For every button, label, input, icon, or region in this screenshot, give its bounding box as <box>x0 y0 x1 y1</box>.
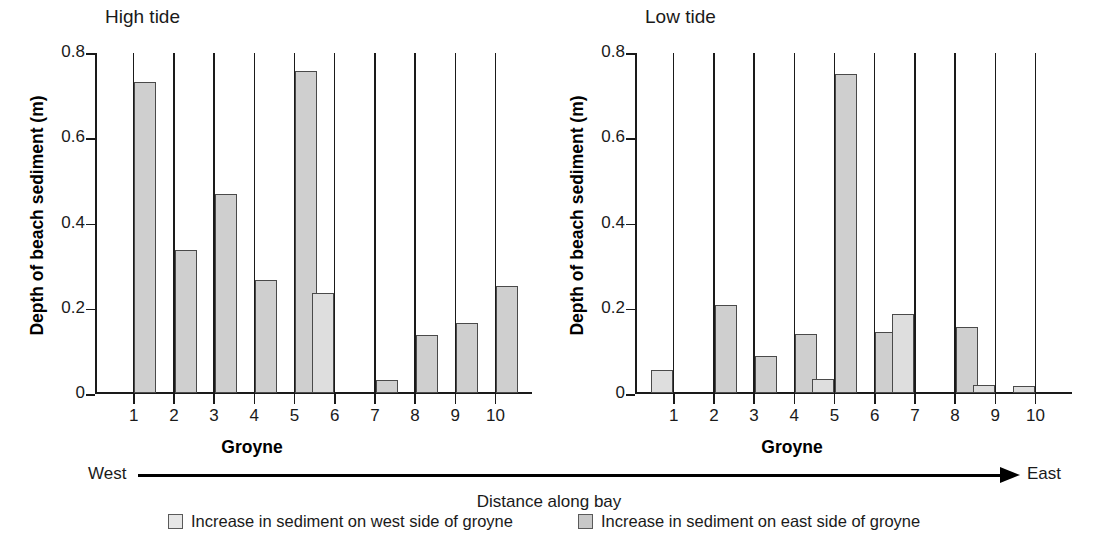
bar-east-3 <box>215 194 237 393</box>
y-tick <box>86 138 95 140</box>
x-tick <box>294 394 296 404</box>
x-tick-label: 6 <box>318 406 352 426</box>
x-tick <box>995 394 997 404</box>
x-tick <box>495 394 497 404</box>
bar-east-10 <box>496 286 518 393</box>
x-tick-label: 3 <box>737 406 771 426</box>
bar-west-10 <box>1013 386 1035 393</box>
y-tick <box>626 138 635 140</box>
x-tick <box>173 394 175 404</box>
bar-east-2 <box>715 305 737 393</box>
y-tick <box>86 309 95 311</box>
x-tick <box>834 394 836 404</box>
arrow-right-icon <box>1000 467 1020 483</box>
x-tick <box>133 394 135 404</box>
x-axis-label-high-tide: Groyne <box>0 437 522 458</box>
bar-east-2 <box>175 250 197 393</box>
x-tick-label: 1 <box>117 406 151 426</box>
x-tick-label: 3 <box>197 406 231 426</box>
x-tick <box>414 394 416 404</box>
bar-west-6 <box>312 293 334 393</box>
bar-west-9 <box>973 385 995 393</box>
groyne-line <box>995 53 996 394</box>
bar-west-1 <box>651 370 673 393</box>
x-tick <box>334 394 336 404</box>
y-tick-label: 0.8 <box>39 42 85 62</box>
legend-item-west: Increase in sediment on west side of gro… <box>168 512 513 531</box>
x-tick-label: 10 <box>479 406 513 426</box>
bar-east-8 <box>956 327 978 393</box>
y-tick <box>626 394 635 396</box>
direction-west-label: West <box>88 464 126 484</box>
legend-item-east: Increase in sediment on east side of gro… <box>578 512 920 531</box>
panel-low-tide: Low tide Depth of beach sediment (m) 00.… <box>540 0 1080 470</box>
groyne-line <box>673 53 674 394</box>
groyne-line <box>1035 53 1036 394</box>
groyne-line <box>334 53 335 394</box>
groyne-line <box>914 53 915 394</box>
x-tick <box>794 394 796 404</box>
x-tick <box>713 394 715 404</box>
bar-east-3 <box>755 356 777 394</box>
x-tick <box>1035 394 1037 404</box>
bar-east-7 <box>376 380 398 393</box>
y-axis-line <box>95 53 97 394</box>
bar-west-5 <box>812 379 834 393</box>
direction-east-label: East <box>1027 464 1061 484</box>
y-tick-label: 0.4 <box>39 213 85 233</box>
x-tick-label: 4 <box>777 406 811 426</box>
y-tick-label: 0.6 <box>579 127 625 147</box>
y-tick <box>86 53 95 55</box>
y-tick-label: 0.6 <box>39 127 85 147</box>
y-tick <box>86 394 95 396</box>
x-tick-label: 1 <box>657 406 691 426</box>
x-tick <box>213 394 215 404</box>
bar-east-9 <box>456 323 478 393</box>
legend-swatch-west-icon <box>168 514 183 529</box>
x-tick-label: 7 <box>358 406 392 426</box>
x-tick <box>874 394 876 404</box>
x-tick <box>254 394 256 404</box>
sediment-depth-figure: High tide Depth of beach sediment (m) 00… <box>0 0 1098 540</box>
x-tick-label: 9 <box>978 406 1012 426</box>
x-tick <box>914 394 916 404</box>
x-tick-label: 2 <box>157 406 191 426</box>
bar-west-7 <box>892 314 914 393</box>
x-axis-label-low-tide: Groyne <box>522 437 1062 458</box>
x-tick-label: 9 <box>438 406 472 426</box>
x-tick-label: 4 <box>237 406 271 426</box>
x-tick-label: 7 <box>898 406 932 426</box>
x-tick-label: 6 <box>858 406 892 426</box>
plot-area-high-tide: 00.20.40.60.812345678910 <box>95 53 530 393</box>
legend-swatch-east-icon <box>578 514 593 529</box>
y-tick <box>626 224 635 226</box>
bar-east-8 <box>416 335 438 393</box>
legend-label-west: Increase in sediment on west side of gro… <box>191 512 513 531</box>
x-tick-label: 8 <box>938 406 972 426</box>
legend-label-east: Increase in sediment on east side of gro… <box>601 512 920 531</box>
x-tick-label: 2 <box>697 406 731 426</box>
x-tick <box>455 394 457 404</box>
panel-title-high-tide: High tide <box>105 6 180 28</box>
y-axis-line <box>635 53 637 394</box>
y-tick <box>626 309 635 311</box>
x-tick <box>673 394 675 404</box>
direction-line <box>138 474 1006 477</box>
x-tick-label: 5 <box>818 406 852 426</box>
y-tick-label: 0.2 <box>39 298 85 318</box>
y-tick <box>626 53 635 55</box>
y-tick <box>86 224 95 226</box>
x-tick <box>954 394 956 404</box>
x-tick-label: 8 <box>398 406 432 426</box>
panel-title-low-tide: Low tide <box>645 6 716 28</box>
x-tick-label: 5 <box>278 406 312 426</box>
y-tick-label: 0 <box>39 383 85 403</box>
y-tick-label: 0.4 <box>579 213 625 233</box>
bar-east-4 <box>255 280 277 393</box>
bar-east-1 <box>134 82 156 393</box>
panel-high-tide: High tide Depth of beach sediment (m) 00… <box>0 0 540 470</box>
x-tick <box>753 394 755 404</box>
groyne-line <box>374 53 375 394</box>
groyne-line <box>753 53 754 394</box>
y-tick-label: 0.8 <box>579 42 625 62</box>
